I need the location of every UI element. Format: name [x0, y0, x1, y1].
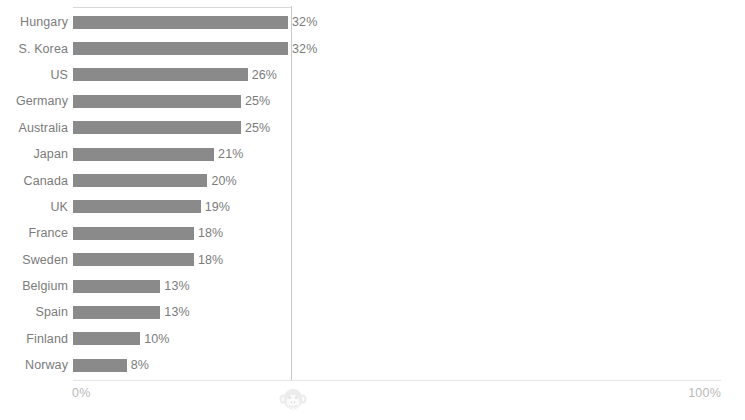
bar [73, 16, 288, 29]
bar [73, 253, 194, 266]
monkey-face-icon [278, 385, 308, 415]
category-label: Australia [0, 121, 68, 135]
category-label: US [0, 68, 68, 82]
x-axis-tick-max: 100% [688, 386, 721, 400]
bar [73, 227, 194, 240]
bar-value-label: 8% [131, 358, 149, 372]
bar-chart: Hungary32%S. Korea32%US26%Germany25%Aust… [0, 0, 745, 420]
bar-row: Spain13% [0, 299, 745, 325]
bar-value-label: 20% [211, 174, 236, 188]
category-label: S. Korea [0, 42, 68, 56]
bar-track: 8% [68, 352, 745, 378]
bar-row: S. Korea32% [0, 35, 745, 61]
bar-track: 13% [68, 299, 745, 325]
bar-row: Finland10% [0, 326, 745, 352]
bar-value-label: 10% [144, 332, 169, 346]
bar [73, 68, 248, 81]
category-label: Canada [0, 174, 68, 188]
bar-row: Hungary32% [0, 9, 745, 35]
bar-track: 25% [68, 88, 745, 114]
bar-row: Japan21% [0, 141, 745, 167]
category-label: Sweden [0, 253, 68, 267]
bar-track: 20% [68, 167, 745, 193]
bar [73, 95, 241, 108]
bar-row: UK19% [0, 194, 745, 220]
bar-row: Germany25% [0, 88, 745, 114]
bar-value-label: 13% [164, 305, 189, 319]
x-axis-line [73, 380, 721, 381]
category-label: Finland [0, 332, 68, 346]
bar-row: US26% [0, 62, 745, 88]
bar [73, 174, 207, 187]
bar [73, 280, 160, 293]
bar [73, 332, 140, 345]
bar-row: France18% [0, 220, 745, 246]
bar-value-label: 32% [292, 15, 317, 29]
category-label: Norway [0, 358, 68, 372]
category-label: Germany [0, 94, 68, 108]
bar [73, 306, 160, 319]
bar-value-label: 26% [252, 68, 277, 82]
bar-value-label: 18% [198, 226, 223, 240]
category-label: Spain [0, 305, 68, 319]
bar-value-label: 13% [164, 279, 189, 293]
bar [73, 200, 201, 213]
bar [73, 42, 288, 55]
bar-track: 32% [68, 9, 745, 35]
bar-value-label: 19% [205, 200, 230, 214]
bar-row: Norway8% [0, 352, 745, 378]
category-label: UK [0, 200, 68, 214]
bar-value-label: 25% [245, 121, 270, 135]
category-label: France [0, 226, 68, 240]
bar-value-label: 18% [198, 253, 223, 267]
bar-track: 13% [68, 273, 745, 299]
bar-track: 18% [68, 247, 745, 273]
bar-row: Belgium13% [0, 273, 745, 299]
bar-track: 25% [68, 115, 745, 141]
bar-row: Sweden18% [0, 247, 745, 273]
bar-track: 18% [68, 220, 745, 246]
bar [73, 148, 214, 161]
bar-track: 32% [68, 35, 745, 61]
bar-row: Australia25% [0, 115, 745, 141]
bar-row: Canada20% [0, 167, 745, 193]
bar-track: 10% [68, 326, 745, 352]
bar-rows: Hungary32%S. Korea32%US26%Germany25%Aust… [0, 9, 745, 378]
top-rule [73, 7, 291, 8]
category-label: Japan [0, 147, 68, 161]
category-label: Hungary [0, 15, 68, 29]
x-axis-tick-min: 0% [72, 386, 90, 400]
bar [73, 359, 127, 372]
bar [73, 121, 241, 134]
bar-track: 21% [68, 141, 745, 167]
vertical-gridline [291, 6, 292, 381]
bar-value-label: 32% [292, 42, 317, 56]
bar-track: 26% [68, 62, 745, 88]
bar-value-label: 21% [218, 147, 243, 161]
category-label: Belgium [0, 279, 68, 293]
bar-track: 19% [68, 194, 745, 220]
bar-value-label: 25% [245, 94, 270, 108]
